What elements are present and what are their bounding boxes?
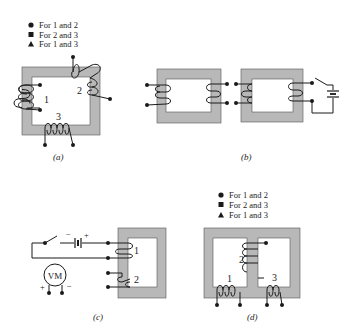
legend-a-item-1: For 1 and 2: [39, 20, 78, 30]
switch-battery-b: [312, 78, 339, 113]
winding-label-3: 3: [272, 272, 277, 283]
battery-minus-label: −: [66, 229, 71, 239]
winding-label-2: 2: [134, 274, 139, 285]
triangle-marker-icon: [218, 212, 224, 218]
terminal-dot: [71, 55, 75, 59]
square-marker-icon: [219, 202, 224, 207]
caption-a: (a): [53, 152, 64, 162]
legend-a: For 1 and 2 For 2 and 3 For 1 and 3: [28, 20, 78, 49]
winding-label-2: 2: [239, 254, 244, 265]
battery-icon: [75, 238, 81, 248]
caption-d: (d): [247, 312, 258, 322]
terminal-dot: [108, 97, 112, 101]
triangle-marker-icon: [28, 41, 34, 47]
battery-plus-label: +: [84, 230, 89, 240]
terminal-dot: [43, 143, 47, 147]
circle-marker-icon: [218, 192, 223, 197]
meter-minus-label: −: [67, 281, 72, 291]
winding-label-2: 2: [77, 85, 82, 96]
circle-marker-icon: [28, 22, 33, 27]
legend-d: For 1 and 2 For 2 and 3 For 1 and 3: [218, 190, 268, 220]
legend-d-item-1: For 1 and 2: [229, 190, 268, 200]
caption-c: (c): [93, 312, 103, 322]
source-circuit-c: − +: [32, 229, 108, 258]
legend-d-item-3: For 1 and 3: [229, 210, 268, 220]
switch-icon: [45, 236, 57, 243]
winding-label-1: 1: [44, 94, 49, 105]
voltmeter: VM + −: [40, 264, 72, 295]
winding-label-3: 3: [56, 111, 61, 122]
magnetic-circuits-figure: .core { fill:#b8b8b8; stroke:#555; strok…: [0, 0, 351, 331]
panel-c: − + 1 2 VM +: [32, 228, 166, 322]
square-marker-icon: [29, 32, 34, 37]
terminal-dot: [71, 143, 75, 147]
legend-d-item-2: For 2 and 3: [229, 200, 268, 210]
legend-a-item-2: For 2 and 3: [39, 30, 78, 40]
meter-plus-label: +: [40, 282, 45, 292]
caption-b: (b): [241, 152, 252, 162]
winding-label-1: 1: [134, 245, 139, 256]
core-b1: [157, 69, 221, 123]
legend-a-item-3: For 1 and 3: [39, 39, 78, 49]
switch-icon: [315, 78, 327, 85]
battery-icon: [327, 91, 339, 97]
winding-label-1: 1: [227, 273, 232, 284]
core-a: [22, 67, 100, 135]
panel-b: (b): [145, 69, 339, 162]
terminal-dot: [38, 83, 42, 87]
panel-a: For 1 and 2 For 2 and 3 For 1 and 3 1: [14, 20, 112, 162]
voltmeter-label: VM: [48, 271, 63, 281]
panel-d: For 1 and 2 For 2 and 3 For 1 and 3 2: [204, 190, 300, 322]
